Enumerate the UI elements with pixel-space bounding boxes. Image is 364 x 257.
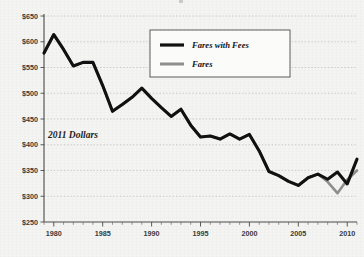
x-axis-label-1995: 1995: [193, 229, 209, 238]
chart-canvas: $250$300$350$400$450$500$550$600$6501980…: [0, 0, 364, 257]
y-axis-label-650: $650: [22, 12, 38, 21]
y-axis-label-300: $300: [22, 192, 38, 201]
y-axis-label-400: $400: [22, 140, 38, 149]
x-axis-label-2010: 2010: [339, 229, 355, 238]
y-axis-label-600: $600: [22, 37, 38, 46]
y-axis-label-250: $250: [22, 218, 38, 227]
x-axis-label-2005: 2005: [290, 229, 306, 238]
cropped-title-mark: [179, 0, 183, 3]
x-axis-label-1990: 1990: [144, 229, 160, 238]
legend-label-fares-with-fees: Fares with Fees: [191, 40, 249, 50]
x-axis-label-1985: 1985: [95, 229, 111, 238]
y-axis-label-450: $450: [22, 115, 38, 124]
x-axis-label-1980: 1980: [46, 229, 62, 238]
y-axis-label-500: $500: [22, 89, 38, 98]
x-axis-label-2000: 2000: [241, 229, 257, 238]
legend-label-fares: Fares: [191, 59, 213, 69]
fares-line-chart: $250$300$350$400$450$500$550$600$6501980…: [0, 0, 364, 257]
dollars-annotation: 2011 Dollars: [47, 130, 98, 140]
y-axis-label-350: $350: [22, 166, 38, 175]
legend-box: [150, 30, 290, 77]
y-axis-label-550: $550: [22, 63, 38, 72]
